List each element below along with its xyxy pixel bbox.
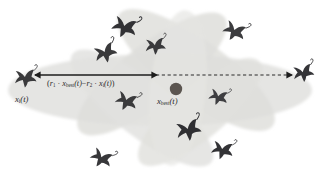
manta-ray-tail bbox=[233, 139, 237, 145]
manta-ray-tail bbox=[246, 23, 251, 30]
manta-ray-tail bbox=[309, 59, 314, 65]
manta-ray-tail bbox=[228, 88, 232, 93]
manta-ray-body bbox=[92, 41, 119, 66]
manta-ray-body bbox=[113, 91, 138, 114]
formula-t-1: (t) bbox=[74, 79, 82, 88]
manta-ray-body bbox=[144, 37, 166, 56]
manta-ray-layer bbox=[0, 0, 323, 181]
manta-ray-body bbox=[221, 20, 248, 44]
manta-ray-top-1 bbox=[110, 11, 143, 42]
manta-ray-tail bbox=[195, 112, 201, 119]
manta-ray-tail bbox=[163, 33, 167, 39]
formula-close: ) bbox=[112, 79, 115, 88]
formula-dot-1: · bbox=[58, 79, 61, 88]
manta-ray-tail bbox=[34, 64, 38, 70]
manta-ray-body bbox=[210, 141, 234, 161]
xbest-argument: (t) bbox=[169, 96, 177, 106]
manta-ray-tail bbox=[137, 16, 142, 23]
manta-ray-right-edge bbox=[290, 59, 317, 85]
manta-ray-body bbox=[291, 63, 315, 84]
current-position-label: xi(t) bbox=[15, 95, 28, 105]
formula-xbest-subscript: best bbox=[66, 82, 74, 88]
xi-argument: (t) bbox=[20, 94, 28, 104]
manta-ray-top-2 bbox=[144, 33, 169, 56]
manta-ray-upper-left bbox=[90, 36, 121, 66]
formula-r1-subscript: 1 bbox=[53, 82, 56, 88]
formula-t-2: (t) bbox=[104, 79, 112, 88]
formula-r2-subscript: 2 bbox=[90, 82, 93, 88]
manta-ray-bottom-right bbox=[210, 136, 237, 161]
manta-ray-mid-right bbox=[207, 85, 231, 108]
manta-ray-body bbox=[88, 147, 114, 171]
figure-canvas: (r1 · xbest(t)−r2 · xi(t)) xi(t) xbest(t… bbox=[0, 0, 323, 181]
manta-ray-body bbox=[110, 15, 139, 40]
manta-ray-tail bbox=[113, 150, 118, 156]
formula-dot-2: · bbox=[94, 79, 97, 88]
movement-formula-label: (r1 · xbest(t)−r2 · xi(t)) bbox=[47, 80, 115, 88]
manta-ray-tail bbox=[110, 36, 116, 43]
manta-ray-tail bbox=[137, 92, 142, 98]
manta-ray-body bbox=[14, 69, 37, 88]
manta-ray-mid-left bbox=[113, 86, 142, 113]
manta-ray-left-anchor bbox=[13, 64, 39, 88]
manta-ray-bottom-mid bbox=[173, 112, 206, 143]
manta-ray-body bbox=[174, 118, 203, 144]
manta-ray-top-right bbox=[221, 15, 252, 44]
manta-ray-body bbox=[207, 88, 228, 107]
manta-ray-bottom-left bbox=[88, 143, 118, 172]
best-position-label: xbest(t) bbox=[157, 97, 178, 107]
